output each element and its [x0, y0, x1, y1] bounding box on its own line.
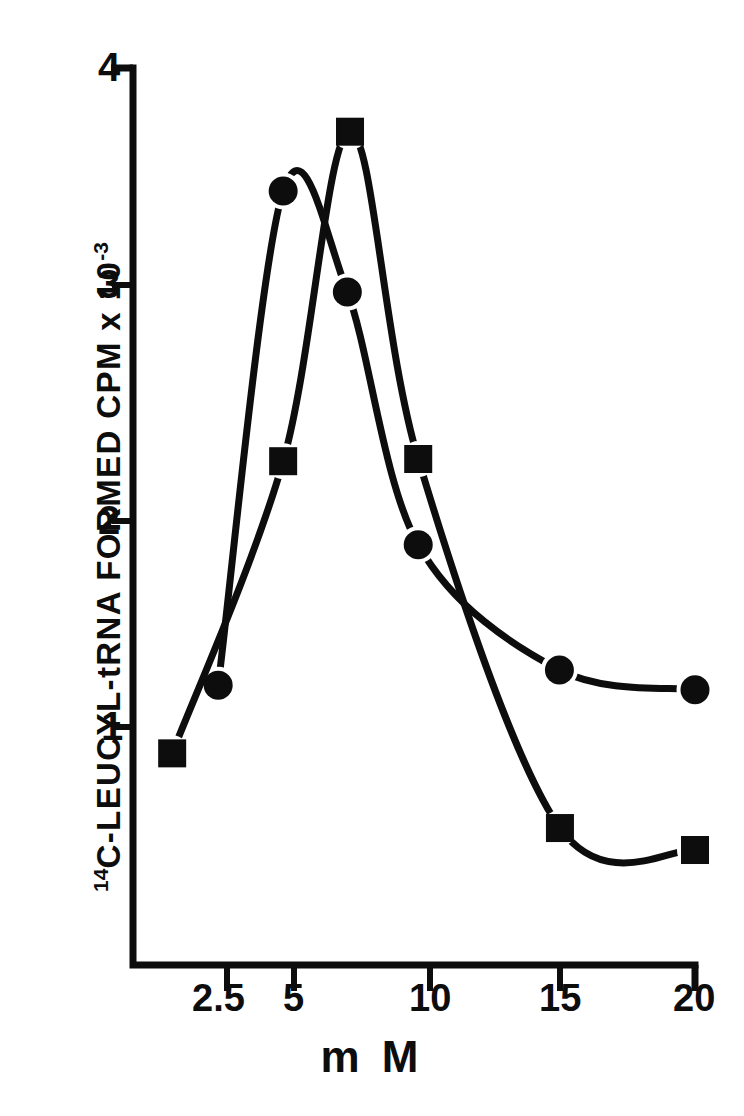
plot-area: 2.17 mM, 1.194.6 mM, 3.447 mM, 2.989.65 …: [0, 0, 744, 1116]
data-point-square: 0.45 mM, 0.88: [158, 739, 186, 767]
data-point-circle: 2.17 mM, 1.19: [204, 671, 233, 700]
x-tick-label-2.5: 2.5: [192, 979, 245, 1017]
data-point-circle: 14.93 mM, 1.26: [545, 655, 574, 684]
data-point-square: 9.65 mM, 2.22: [404, 445, 432, 473]
axis-spine: [133, 68, 695, 965]
y-tick-label-3: 3: [98, 264, 120, 304]
y-tick-label-4: 4: [98, 47, 120, 87]
figure-panel: 2.17 mM, 1.194.6 mM, 3.447 mM, 2.989.65 …: [0, 0, 744, 1116]
data-point-circle: 4.6 mM, 3.44: [269, 177, 298, 206]
x-tick-label-20: 20: [673, 979, 715, 1017]
x-tick-label-15: 15: [539, 979, 581, 1017]
data-point-square: 20 mM, 0.44: [681, 836, 709, 864]
x-tick-label-10: 10: [409, 979, 451, 1017]
series-line-square-series: [172, 132, 695, 863]
y-tick-label-2: 2: [98, 500, 120, 540]
data-point-square: 7.1 mM, 3.71: [336, 118, 364, 146]
series-circle-series: 2.17 mM, 1.194.6 mM, 3.447 mM, 2.989.65 …: [200, 171, 714, 709]
x-axis-title: m M: [0, 1032, 744, 1082]
data-point-circle: 20 mM, 1.17: [681, 675, 710, 704]
x-tick-label-5: 5: [283, 979, 304, 1017]
data-point-circle: 7 mM, 2.98: [333, 278, 362, 307]
data-point-square: 4.6 mM, 2.21: [269, 447, 297, 475]
y-tick-label-1: 1: [101, 706, 123, 746]
data-point-square: 14.95 mM, 0.54: [546, 814, 574, 842]
data-point-circle: 9.65 mM, 1.83: [404, 530, 433, 559]
